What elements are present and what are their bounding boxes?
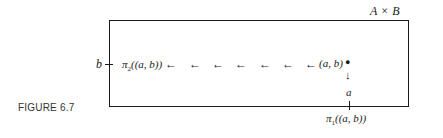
left-arrow-icon: ← [235, 57, 247, 72]
set-b: B [392, 4, 399, 18]
left-arrow-icon: ← [305, 57, 317, 72]
figure-caption: FIGURE 6.7 [18, 102, 74, 113]
a-label: a [346, 86, 352, 98]
left-arrow-icon: ← [282, 57, 294, 72]
projection-1-label: π1((a, b)) [326, 112, 366, 127]
b-label: b [96, 57, 102, 72]
pi-argument: ((a, b)) [335, 112, 366, 124]
left-arrow-icon: ← [165, 57, 177, 72]
point-label: (a, b) [319, 57, 343, 69]
set-a: A [370, 4, 377, 18]
b-tick [105, 64, 113, 65]
times-symbol: × [381, 4, 388, 18]
pi-argument: ((a, b)) [131, 58, 162, 70]
left-arrow-icon: ← [189, 57, 201, 72]
point-dot-icon: ● [345, 57, 350, 67]
projection-2-label: π2((a, b)) [122, 58, 162, 73]
left-arrow-icon: ← [212, 57, 224, 72]
down-arrow-icon: ↓ [345, 69, 351, 81]
set-label-a-times-b: A×B [370, 4, 399, 19]
a-tick [349, 101, 350, 110]
left-arrow-icon: ← [259, 57, 271, 72]
